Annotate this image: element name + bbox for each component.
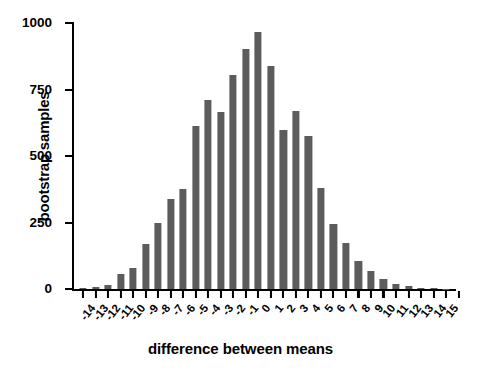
bar: [367, 271, 374, 289]
bar: [217, 112, 224, 289]
bar: [405, 286, 412, 289]
x-tick: [407, 291, 409, 298]
x-tick-label: 8: [359, 302, 372, 314]
y-axis-line: [72, 22, 74, 291]
x-tick: [257, 291, 259, 298]
x-tick: [170, 291, 172, 298]
y-tick-label: 0: [44, 281, 52, 296]
y-tick: 750: [65, 89, 72, 91]
x-tick: [370, 291, 372, 298]
bar: [380, 279, 387, 289]
bar: [242, 49, 249, 289]
plot-area: 02505007501000 -14-13-12-11-10-9-8-7-6-5…: [76, 22, 456, 290]
x-tick: [232, 291, 234, 298]
bar: [330, 224, 337, 289]
x-tick: [382, 291, 384, 298]
x-tick: [332, 291, 334, 298]
y-tick: 500: [65, 155, 72, 157]
bar: [280, 130, 287, 289]
x-axis-title: difference between means: [0, 340, 481, 357]
x-tick-label: 4: [309, 302, 322, 314]
bar: [392, 284, 399, 289]
bar: [142, 244, 149, 289]
bar: [155, 223, 162, 289]
x-tick: [82, 291, 84, 298]
x-tick-label: 0: [259, 302, 272, 314]
x-tick: [295, 291, 297, 298]
x-tick: [107, 291, 109, 298]
x-tick: [220, 291, 222, 298]
x-tick-label: 3: [297, 302, 310, 314]
bar: [417, 288, 424, 289]
bar: [129, 268, 136, 289]
x-tick: [307, 291, 309, 298]
bar: [205, 100, 212, 289]
y-tick-label: 1000: [22, 15, 52, 30]
x-tick: [433, 291, 435, 298]
x-tick: [132, 291, 134, 298]
y-tick-label: 750: [29, 81, 52, 96]
x-tick-label: 1: [272, 302, 285, 314]
bar: [230, 75, 237, 289]
y-tick: 0: [65, 288, 72, 290]
x-axis-line: [72, 289, 456, 291]
x-tick: [420, 291, 422, 298]
bar: [167, 199, 174, 289]
bar: [92, 287, 99, 289]
bar: [117, 274, 124, 289]
bar: [180, 189, 187, 289]
x-tick: [145, 291, 147, 298]
y-tick-label: 250: [29, 214, 52, 229]
x-tick: [270, 291, 272, 298]
x-tick: [157, 291, 159, 298]
y-tick: 250: [65, 222, 72, 224]
x-tick: [282, 291, 284, 298]
bar: [317, 188, 324, 289]
y-tick-label: 500: [29, 148, 52, 163]
bar: [292, 111, 299, 289]
bar: [192, 126, 199, 289]
x-tick: [395, 291, 397, 298]
x-tick-label: 6: [334, 302, 347, 314]
x-tick-label: 2: [284, 302, 297, 314]
x-tick-label: 7: [347, 302, 360, 314]
bar: [342, 243, 349, 289]
x-tick: [207, 291, 209, 298]
x-tick-label: -1: [244, 302, 260, 317]
x-tick: [445, 291, 447, 298]
x-tick: [357, 291, 359, 298]
x-tick: [245, 291, 247, 298]
histogram-figure: bootstrap samples 02505007501000 -14-13-…: [0, 0, 481, 374]
bar: [305, 136, 312, 289]
bar: [79, 288, 86, 289]
bar: [355, 261, 362, 289]
y-tick: 1000: [65, 22, 72, 24]
x-tick: [320, 291, 322, 298]
bar: [255, 32, 262, 289]
x-tick: [195, 291, 197, 298]
x-tick: [182, 291, 184, 298]
x-tick: [458, 291, 460, 298]
x-tick-label: 15: [443, 302, 460, 319]
x-tick: [345, 291, 347, 298]
bar: [104, 285, 111, 289]
x-tick: [120, 291, 122, 298]
bar: [267, 66, 274, 289]
x-tick-label: 5: [322, 302, 335, 314]
x-tick: [94, 291, 96, 298]
bar: [430, 288, 437, 289]
